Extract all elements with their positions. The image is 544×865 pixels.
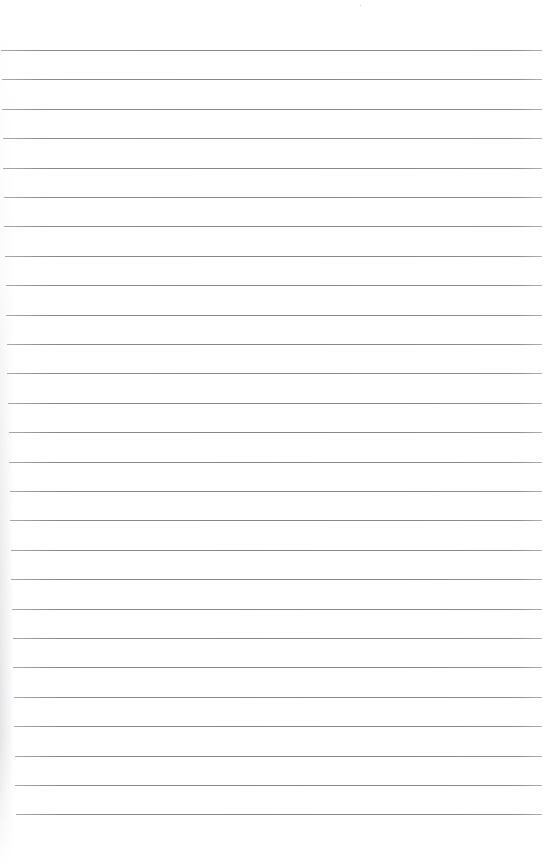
ruled-line	[4, 197, 542, 198]
ruled-line	[1, 50, 542, 51]
ruled-line	[2, 79, 542, 80]
ruled-line	[4, 226, 542, 227]
ruled-line	[15, 785, 542, 786]
paper-speck	[360, 5, 361, 6]
ruled-line	[16, 814, 542, 815]
ruled-line	[14, 697, 542, 698]
ruled-line	[7, 373, 542, 374]
ruled-line	[5, 256, 542, 257]
lined-paper-page	[0, 0, 544, 865]
ruled-line	[14, 726, 542, 727]
ruled-line	[10, 520, 542, 521]
ruled-line	[6, 285, 542, 286]
ruled-line	[7, 344, 542, 345]
ruled-line	[9, 432, 542, 433]
ruled-line	[8, 403, 542, 404]
ruled-line	[10, 491, 542, 492]
ruled-line	[12, 609, 542, 610]
ruled-line	[3, 138, 542, 139]
ruled-line	[11, 550, 542, 551]
ruled-line	[9, 462, 542, 463]
ruled-line	[13, 667, 542, 668]
ruled-line	[15, 756, 542, 757]
ruled-line	[6, 315, 542, 316]
ruled-line	[11, 579, 542, 580]
ruled-line	[3, 168, 542, 169]
ruled-line	[13, 638, 542, 639]
ruled-line	[2, 109, 542, 110]
